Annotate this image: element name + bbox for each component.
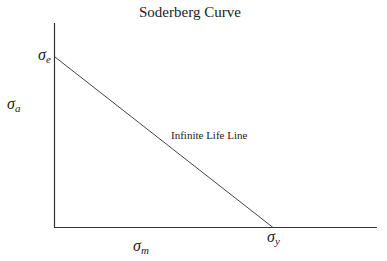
sigma-y-label: σy	[267, 228, 280, 247]
sigma-a-label: σa	[7, 95, 20, 114]
sigma-m-label: σm	[133, 237, 149, 256]
sigma-e-label: σe	[38, 46, 51, 65]
infinite-life-line-label: Infinite Life Line	[171, 129, 247, 141]
infinite-life-line	[55, 57, 273, 228]
